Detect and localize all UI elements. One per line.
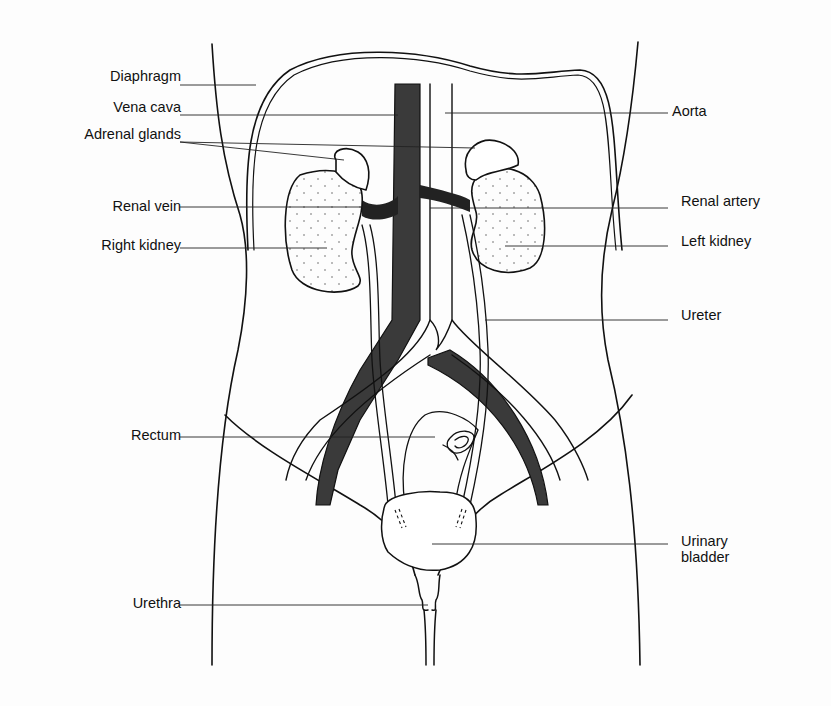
renal-vein <box>362 196 398 220</box>
label-urinary-bladder-line2: bladder <box>681 549 729 565</box>
label-left-kidney: Left kidney <box>681 233 751 249</box>
label-urethra: Urethra <box>133 595 181 611</box>
right-kidney <box>285 171 362 293</box>
label-vena-cava: Vena cava <box>113 99 181 115</box>
label-ureter: Ureter <box>681 307 721 323</box>
label-diaphragm: Diaphragm <box>110 68 181 84</box>
vena-cava <box>316 84 420 505</box>
label-adrenal-glands: Adrenal glands <box>84 126 181 142</box>
label-right-kidney: Right kidney <box>101 237 181 253</box>
urinary-bladder <box>382 492 477 571</box>
label-urinary-bladder: Urinary bladder <box>681 533 729 565</box>
label-renal-vein: Renal vein <box>112 198 181 214</box>
label-rectum: Rectum <box>131 427 181 443</box>
label-aorta: Aorta <box>672 103 707 119</box>
urinary-system-diagram: Diaphragm Vena cava Adrenal glands Renal… <box>0 0 831 706</box>
left-kidney <box>471 168 544 272</box>
rectum <box>403 412 478 505</box>
body-outline-left <box>212 44 247 665</box>
label-urinary-bladder-line1: Urinary <box>681 533 729 549</box>
label-renal-artery: Renal artery <box>681 193 760 209</box>
